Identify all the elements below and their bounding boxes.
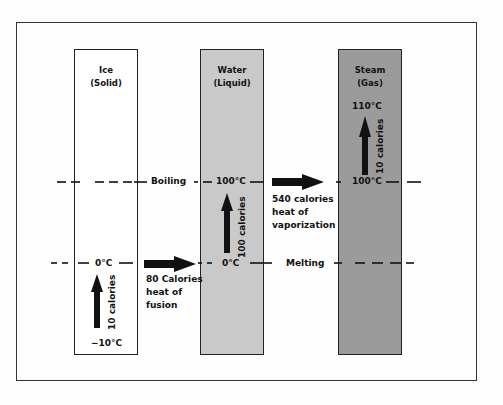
water-heating-label: 100 calories	[237, 196, 247, 258]
vaporization-label: 540 calories heat of vaporization	[272, 193, 335, 232]
fusion-line-3: fusion	[146, 299, 203, 312]
steam-bottom-temp: 100°C	[352, 175, 382, 188]
fusion-line-1: 80 Calories	[146, 273, 203, 286]
diagram-overlay	[0, 0, 503, 405]
ice-bottom-temp: −10°C	[91, 337, 122, 350]
vaporization-arrow	[272, 174, 324, 190]
melting-label: Melting	[286, 257, 324, 270]
vaporization-line-3: vaporization	[272, 219, 335, 232]
ice-heating-arrow	[91, 274, 103, 328]
water-top-temp: 100°C	[216, 175, 246, 188]
fusion-line-2: heat of	[146, 286, 203, 299]
fusion-label: 80 Calories heat of fusion	[146, 273, 203, 312]
steam-top-temp: 110°C	[352, 100, 382, 113]
water-bottom-temp: 0°C	[222, 257, 239, 270]
fusion-arrow	[144, 256, 196, 272]
vaporization-line-2: heat of	[272, 206, 335, 219]
boiling-label: Boiling	[151, 175, 186, 188]
vaporization-line-1: 540 calories	[272, 193, 335, 206]
steam-heating-label: 10 calories	[375, 119, 385, 174]
ice-top-temp: 0°C	[95, 257, 112, 270]
water-heating-arrow	[221, 193, 233, 253]
steam-heating-arrow	[359, 116, 371, 175]
ice-heating-label: 10 calories	[107, 275, 117, 330]
